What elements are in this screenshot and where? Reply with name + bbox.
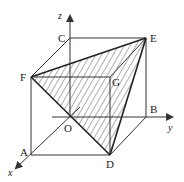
origin-label: O <box>64 122 72 134</box>
vertex-b-label: B <box>150 103 157 115</box>
x-axis-label: x <box>7 167 13 178</box>
z-axis-label: z <box>57 10 62 21</box>
cube-diagram: z y x O C E F G B A D <box>0 0 184 182</box>
vertex-f-label: F <box>20 71 26 83</box>
x-axis <box>16 107 80 168</box>
vertex-g-label: G <box>112 76 120 88</box>
vertex-c-label: C <box>58 32 65 44</box>
vertex-a-label: A <box>20 146 28 158</box>
vertex-d-label: D <box>106 158 114 170</box>
vertex-e-label: E <box>150 32 157 44</box>
y-axis-label: y <box>167 122 173 133</box>
